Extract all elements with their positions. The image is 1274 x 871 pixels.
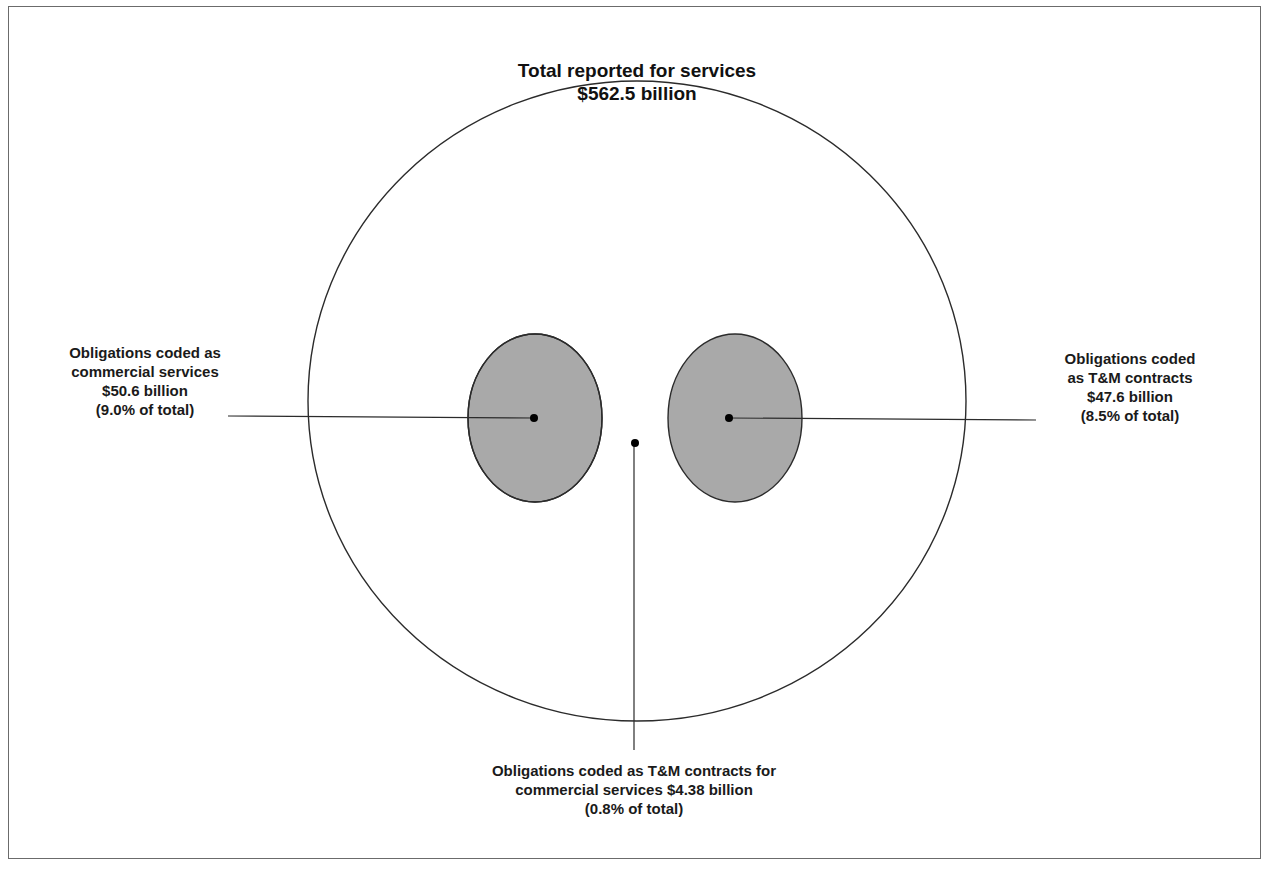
label-percent: (9.0% of total) [20,400,270,419]
label-line: Obligations coded [1030,349,1230,368]
tm-dot [725,414,733,422]
commercial-dot [530,414,538,422]
total-services-ellipse [308,81,966,721]
label-value: $50.6 billion [20,381,270,400]
commercial-services-label: Obligations coded as commercial services… [20,343,270,419]
tm-contracts-label: Obligations coded as T&M contracts $47.6… [1030,349,1230,425]
title-total-value: $562.5 billion [437,82,837,105]
venn-diagram [0,0,1274,871]
overlap-dot [631,439,639,447]
label-line: as T&M contracts [1030,368,1230,387]
overlap-label: Obligations coded as T&M contracts for c… [434,761,834,818]
label-percent: (8.5% of total) [1030,406,1230,425]
label-line: Obligations coded as [20,343,270,362]
label-line: Obligations coded as T&M contracts for [434,761,834,780]
title-line: Total reported for services [437,59,837,82]
label-percent: (0.8% of total) [434,799,834,818]
label-value: $47.6 billion [1030,387,1230,406]
label-line: commercial services [20,362,270,381]
diagram-title: Total reported for services $562.5 billi… [437,59,837,105]
label-line: commercial services $4.38 billion [434,780,834,799]
